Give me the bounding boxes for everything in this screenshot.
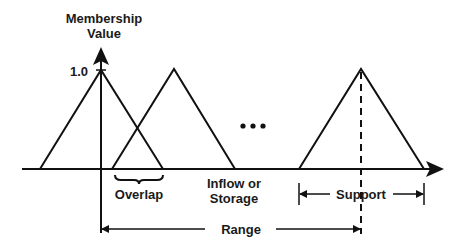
y-tick-label: 1.0 — [70, 64, 88, 79]
ellipsis-dots — [240, 123, 265, 128]
x-axis-label-line1: Inflow or — [207, 176, 261, 191]
range-label: Range — [221, 222, 261, 237]
y-axis-label-line1: Membership — [66, 11, 143, 26]
overlap-label: Overlap — [115, 187, 163, 202]
y-axis — [93, 47, 109, 233]
membership-triangle-2 — [112, 69, 235, 169]
x-axis — [22, 161, 444, 177]
overlap-brace — [115, 175, 163, 184]
x-axis-label-line2: Storage — [210, 191, 258, 206]
support-label: Support — [336, 187, 386, 202]
membership-function-diagram: Membership Value 1.0 Overlap Inflow or S… — [0, 0, 464, 250]
y-axis-label-line2: Value — [87, 26, 121, 41]
